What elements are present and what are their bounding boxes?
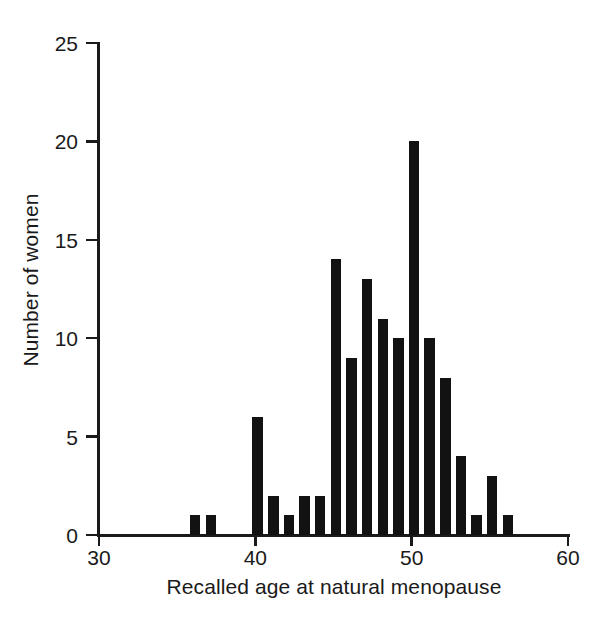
bar-age-56 bbox=[503, 515, 513, 535]
x-tick-30 bbox=[98, 535, 101, 546]
y-tick-label-20: 20 bbox=[30, 131, 78, 152]
bar-age-53 bbox=[456, 456, 466, 535]
y-tick-label-5: 5 bbox=[30, 427, 78, 448]
x-tick-label-50: 50 bbox=[382, 546, 442, 570]
x-tick-label-40: 40 bbox=[225, 546, 285, 570]
y-tick-5 bbox=[86, 435, 97, 438]
bar-age-48 bbox=[378, 319, 388, 535]
bar-age-52 bbox=[440, 378, 450, 535]
bar-age-51 bbox=[424, 338, 434, 535]
bar-age-37 bbox=[206, 515, 216, 535]
bar-age-49 bbox=[393, 338, 403, 535]
y-tick-20 bbox=[86, 140, 97, 143]
y-tick-0 bbox=[86, 534, 97, 537]
bar-age-55 bbox=[487, 476, 497, 535]
x-axis-label: Recalled age at natural menopause bbox=[99, 575, 569, 599]
x-tick-label-30: 30 bbox=[69, 546, 129, 570]
bar-age-54 bbox=[471, 515, 481, 535]
bar-age-44 bbox=[315, 496, 325, 535]
x-tick-label-60: 60 bbox=[538, 546, 598, 570]
y-tick-label-25: 25 bbox=[30, 33, 78, 54]
bar-age-47 bbox=[362, 279, 372, 535]
bars-container bbox=[99, 43, 568, 535]
bar-age-41 bbox=[268, 496, 278, 535]
bar-age-50 bbox=[409, 141, 419, 535]
y-tick-label-15: 15 bbox=[30, 230, 78, 251]
bar-age-36 bbox=[190, 515, 200, 535]
x-tick-50 bbox=[410, 535, 413, 546]
y-tick-15 bbox=[86, 239, 97, 242]
x-tick-40 bbox=[254, 535, 257, 546]
bar-age-45 bbox=[331, 259, 341, 535]
histogram-figure: Number of women 0510152025 30405060 Reca… bbox=[0, 0, 607, 631]
x-tick-60 bbox=[567, 535, 570, 546]
y-tick-label-0: 0 bbox=[30, 525, 78, 546]
bar-age-42 bbox=[284, 515, 294, 535]
y-tick-10 bbox=[86, 337, 97, 340]
bar-age-46 bbox=[346, 358, 356, 535]
bar-age-40 bbox=[252, 417, 262, 535]
bar-age-43 bbox=[299, 496, 309, 535]
y-tick-label-10: 10 bbox=[30, 328, 78, 349]
y-axis-label: Number of women bbox=[14, 0, 48, 560]
y-tick-25 bbox=[86, 42, 97, 45]
